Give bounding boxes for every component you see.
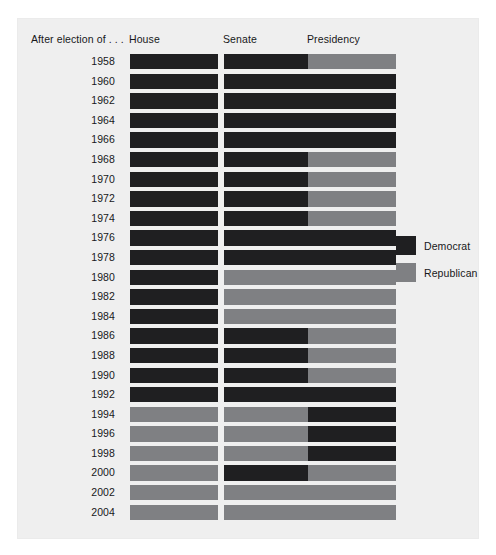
- year-label: 2002: [17, 486, 115, 498]
- year-label: 1986: [17, 329, 115, 341]
- cell-senate-1984: [224, 309, 312, 324]
- cell-senate-1998: [224, 446, 312, 461]
- cell-house-1980: [130, 270, 218, 285]
- year-label: 1990: [17, 369, 115, 381]
- cell-house-1958: [130, 54, 218, 69]
- year-label: 1988: [17, 349, 115, 361]
- cell-presidency-1964: [308, 113, 396, 128]
- chart-row: 2004: [17, 504, 479, 524]
- cell-senate-1988: [224, 348, 312, 363]
- cell-presidency-2000: [308, 465, 396, 480]
- year-label: 2004: [17, 506, 115, 518]
- year-label: 1966: [17, 133, 115, 145]
- cell-house-1988: [130, 348, 218, 363]
- cell-house-2002: [130, 485, 218, 500]
- chart-row: 1962: [17, 92, 479, 112]
- cell-senate-1960: [224, 74, 312, 89]
- legend-label: Democrat: [424, 240, 470, 252]
- cell-house-1962: [130, 93, 218, 108]
- cell-house-1964: [130, 113, 218, 128]
- cell-presidency-1966: [308, 132, 396, 147]
- cell-presidency-1974: [308, 211, 396, 226]
- chart-row: 1990: [17, 367, 479, 387]
- cell-presidency-2002: [308, 485, 396, 500]
- cell-senate-1962: [224, 93, 312, 108]
- year-label: 1968: [17, 153, 115, 165]
- chart-row: 1996: [17, 425, 479, 445]
- cell-presidency-1986: [308, 328, 396, 343]
- chart-row: 1984: [17, 308, 479, 328]
- cell-presidency-1996: [308, 426, 396, 441]
- cell-presidency-1972: [308, 191, 396, 206]
- chart-row: 1960: [17, 73, 479, 93]
- cell-presidency-1978: [308, 250, 396, 265]
- cell-house-1982: [130, 289, 218, 304]
- cell-presidency-1992: [308, 387, 396, 402]
- chart-row: 1966: [17, 131, 479, 151]
- column-header-presidency: Presidency: [307, 33, 360, 45]
- party-control-chart: After election of . . . House Senate Pre…: [0, 0, 496, 555]
- legend-swatch-democrat: [396, 236, 416, 255]
- cell-house-1986: [130, 328, 218, 343]
- chart-row: 2002: [17, 484, 479, 504]
- cell-senate-2004: [224, 505, 312, 520]
- cell-senate-1964: [224, 113, 312, 128]
- cell-presidency-1970: [308, 172, 396, 187]
- cell-house-1974: [130, 211, 218, 226]
- cell-senate-1990: [224, 368, 312, 383]
- cell-house-1998: [130, 446, 218, 461]
- column-header-senate: Senate: [223, 33, 257, 45]
- year-label: 1958: [17, 55, 115, 67]
- cell-presidency-1968: [308, 152, 396, 167]
- legend-label: Republican: [424, 267, 478, 279]
- cell-senate-1994: [224, 407, 312, 422]
- legend: DemocratRepublican: [396, 235, 490, 289]
- cell-house-1972: [130, 191, 218, 206]
- legend-swatch-republican: [396, 263, 416, 282]
- cell-house-2004: [130, 505, 218, 520]
- year-label: 1978: [17, 251, 115, 263]
- year-label: 1970: [17, 173, 115, 185]
- chart-row: 1986: [17, 327, 479, 347]
- cell-house-1976: [130, 230, 218, 245]
- cell-house-1970: [130, 172, 218, 187]
- chart-row: 1968: [17, 151, 479, 171]
- chart-row: 2000: [17, 464, 479, 484]
- year-label: 1972: [17, 192, 115, 204]
- column-headers: After election of . . . House Senate Pre…: [17, 33, 479, 51]
- cell-presidency-1984: [308, 309, 396, 324]
- year-label: 1980: [17, 271, 115, 283]
- cell-senate-1982: [224, 289, 312, 304]
- chart-row: 1972: [17, 190, 479, 210]
- legend-item: Republican: [396, 262, 490, 283]
- cell-house-1992: [130, 387, 218, 402]
- cell-senate-1958: [224, 54, 312, 69]
- year-label: 1974: [17, 212, 115, 224]
- year-label: 1998: [17, 447, 115, 459]
- year-label: 1996: [17, 427, 115, 439]
- cell-house-1968: [130, 152, 218, 167]
- cell-presidency-1982: [308, 289, 396, 304]
- cell-senate-1978: [224, 250, 312, 265]
- legend-item: Democrat: [396, 235, 490, 256]
- cell-house-2000: [130, 465, 218, 480]
- cell-senate-1974: [224, 211, 312, 226]
- cell-presidency-1994: [308, 407, 396, 422]
- cell-house-1994: [130, 407, 218, 422]
- cell-senate-1976: [224, 230, 312, 245]
- year-label: 1962: [17, 94, 115, 106]
- cell-presidency-1980: [308, 270, 396, 285]
- cell-senate-1980: [224, 270, 312, 285]
- cell-senate-1992: [224, 387, 312, 402]
- cell-presidency-1962: [308, 93, 396, 108]
- cell-senate-1968: [224, 152, 312, 167]
- chart-row: 1958: [17, 53, 479, 73]
- cell-presidency-1990: [308, 368, 396, 383]
- year-label: 1960: [17, 75, 115, 87]
- cell-presidency-1988: [308, 348, 396, 363]
- cell-senate-1986: [224, 328, 312, 343]
- year-label: 1982: [17, 290, 115, 302]
- cell-senate-2002: [224, 485, 312, 500]
- cell-house-1966: [130, 132, 218, 147]
- row-header-label: After election of . . .: [31, 33, 124, 45]
